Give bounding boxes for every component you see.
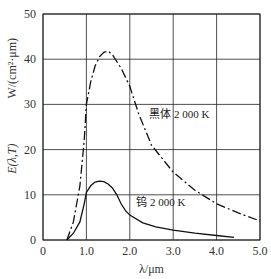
- x-tick-label: 2.0: [122, 244, 137, 258]
- x-tick-label: 5.0: [253, 244, 268, 258]
- y-tick-label: 40: [24, 52, 36, 66]
- y-tick-label: 30: [24, 97, 36, 111]
- series-line-tungsten: [67, 181, 234, 240]
- x-tick-label: 4.0: [209, 244, 224, 258]
- series-annotation: 钨 2 000 K: [136, 196, 185, 208]
- x-tick-label: 1.0: [79, 244, 94, 258]
- series-layer: [67, 51, 260, 240]
- series-line-blackbody: [67, 51, 260, 240]
- y-tick-label: 50: [24, 7, 36, 21]
- y-tick-labels: 01020304050: [24, 7, 36, 247]
- x-axis-label: λ/μm: [139, 262, 165, 276]
- x-tick-label: 3.0: [166, 244, 181, 258]
- spectral-emission-chart: 01.02.03.04.05.0 01020304050 黑体 2 000 K钨…: [0, 0, 271, 279]
- y-tick-label: 0: [30, 233, 36, 247]
- series-annotation: 黑体 2 000 K: [149, 107, 209, 120]
- y-axis-label-unit: W/(cm²·μm): [5, 38, 19, 99]
- x-tick-labels: 01.02.03.04.05.0: [40, 244, 268, 258]
- y-axis-label-symbol: E(λ,T): [5, 144, 19, 175]
- y-tick-label: 20: [24, 143, 36, 157]
- x-tick-label: 0: [40, 244, 46, 258]
- y-tick-label: 10: [24, 188, 36, 202]
